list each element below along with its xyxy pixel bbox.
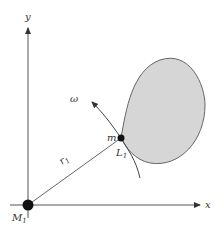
m-label: m [107, 132, 116, 143]
m1-label: M1 [11, 212, 27, 225]
mass-m-dot [118, 135, 125, 142]
r1-label: r1 [57, 152, 72, 168]
omega-label: ω [70, 93, 78, 104]
radius-line [28, 138, 121, 205]
x-axis-label: x [205, 199, 211, 210]
mass-m1-dot [23, 200, 34, 211]
y-axis-label: y [24, 11, 31, 22]
l1-label: L1 [115, 147, 127, 160]
roche-lobe-diagram: y x ω m L1 r1 M1 [0, 0, 224, 234]
roche-lobe [121, 58, 205, 163]
